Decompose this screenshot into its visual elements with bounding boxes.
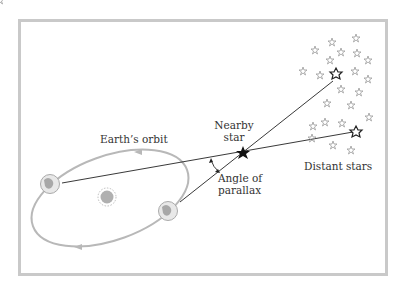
nearby-star-label-line1: Nearby	[214, 119, 254, 131]
earth-icon-2	[159, 202, 178, 221]
parallax-angle-label: Angle of parallax	[218, 172, 262, 196]
parallax-diagram	[0, 0, 405, 286]
nearby-star-label-line2: star	[214, 131, 254, 143]
nearby-star-label: Nearby star	[214, 119, 254, 143]
distant-star-icons	[330, 68, 362, 137]
distant-stars-label: Distant stars	[304, 160, 372, 172]
background-stars	[0, 0, 373, 154]
orbit-label: Earth’s orbit	[100, 133, 168, 145]
parallax-angle-label-line1: Angle of	[218, 172, 262, 184]
orbit-arrow-icon	[74, 244, 82, 250]
sun-icon	[98, 188, 116, 206]
parallax-angle-label-line2: parallax	[218, 184, 262, 196]
earth-icon-1	[41, 175, 60, 194]
